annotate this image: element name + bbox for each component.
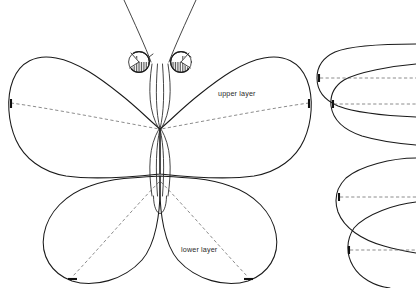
right-lower-wing xyxy=(160,176,277,283)
right-upper-wing-foldline xyxy=(161,103,309,129)
side-piece-top xyxy=(317,44,416,117)
lower-layer-label: lower layer xyxy=(181,245,218,254)
left-eye-tip xyxy=(149,54,153,57)
eyes-group xyxy=(126,48,194,76)
upper-layer-label: upper layer xyxy=(218,89,256,98)
left-upper-wing-foldline xyxy=(11,103,159,129)
right-upper-wing xyxy=(160,57,311,178)
lower-wings-group xyxy=(43,176,277,283)
side-pieces-group xyxy=(317,44,416,288)
side-piece-middle xyxy=(331,64,416,145)
right-lower-wing-foldline xyxy=(161,182,248,277)
left-lower-wing-foldline xyxy=(72,182,159,277)
left-upper-wing xyxy=(9,57,160,178)
pattern-drawing: upper layer lower layer xyxy=(0,0,416,288)
upper-wings-group xyxy=(9,57,312,178)
side-piece-bottom-upper xyxy=(336,158,416,253)
butterfly-pattern-canvas: upper layer lower layer xyxy=(0,0,416,288)
left-lower-wing xyxy=(43,176,160,283)
